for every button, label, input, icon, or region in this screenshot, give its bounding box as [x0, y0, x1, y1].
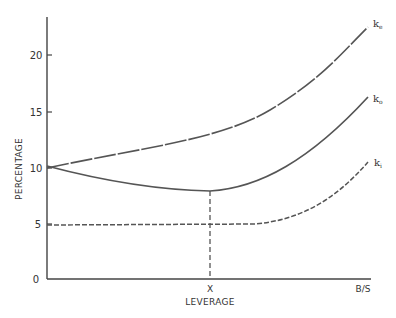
- curve-ko: [47, 97, 368, 191]
- x-tick-label-x: X: [207, 284, 213, 294]
- y-tick-label-20: 20: [30, 50, 43, 61]
- label-ki: ki: [374, 157, 382, 169]
- chart: 0 5 10 15 20 PERCENTAGE X B/S LEVERAGE k…: [0, 0, 396, 318]
- y-tick-label-10: 10: [30, 163, 43, 174]
- x-axis-title: LEVERAGE: [185, 297, 235, 307]
- y-tick-label-0: 0: [33, 274, 39, 285]
- label-ke: ke: [373, 18, 383, 30]
- x-tick-label-bs: B/S: [356, 284, 371, 294]
- y-tick-label-5: 5: [35, 219, 41, 230]
- label-ko: ko: [373, 93, 383, 105]
- curve-ki: [47, 162, 368, 225]
- y-tick-label-15: 15: [30, 107, 43, 118]
- curve-ke: [47, 27, 368, 168]
- y-axis-title: PERCENTAGE: [14, 138, 24, 200]
